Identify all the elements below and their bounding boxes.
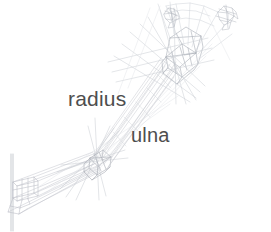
finger-cluster-right xyxy=(216,5,238,30)
hand-metacarpal-fan xyxy=(158,2,232,59)
mid-joint-construction xyxy=(57,118,128,200)
finger-cluster-left xyxy=(164,7,180,28)
wireframe-group xyxy=(8,2,238,231)
label-ulna: ulna xyxy=(131,125,170,145)
label-radius: radius xyxy=(68,88,126,109)
forearm-wireframe-drawing xyxy=(0,0,271,232)
humerus-axis xyxy=(11,154,13,231)
elbow-block xyxy=(8,177,38,214)
illustration-canvas: radius ulna xyxy=(0,0,271,232)
ulna-shaft xyxy=(104,62,177,170)
